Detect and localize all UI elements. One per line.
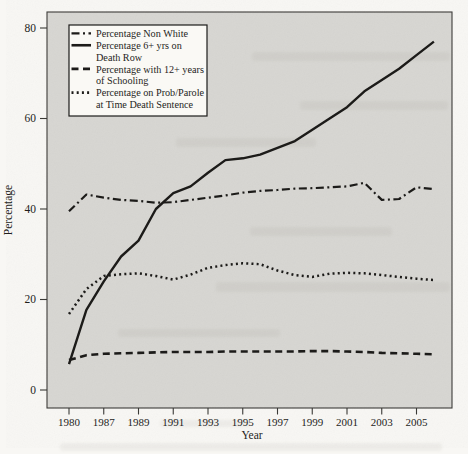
ghost-artifact	[60, 443, 442, 451]
x-axis-title: Year	[241, 429, 262, 441]
x-tick-label-1980: 1980	[58, 416, 81, 428]
y-tick-label-20: 20	[25, 293, 37, 305]
legend-label: of Schooling	[96, 75, 148, 86]
legend-label: Percentage 6+ yrs on	[96, 40, 182, 51]
ghost-artifact	[216, 282, 450, 292]
x-tick-label-1993: 1993	[197, 416, 220, 428]
x-tick-label-1997: 1997	[267, 416, 290, 428]
x-tick-label-2001: 2001	[336, 416, 358, 428]
x-tick-label-2003: 2003	[371, 416, 394, 428]
legend-label: Death Row	[96, 52, 143, 63]
x-tick-label-2005: 2005	[406, 416, 429, 428]
scanned-chart-page: 0204060801980198719891991199319951997199…	[0, 0, 468, 454]
ghost-artifact	[176, 138, 316, 147]
x-tick-label-1989: 1989	[128, 416, 151, 428]
x-tick-label-1995: 1995	[232, 416, 255, 428]
legend-label: Percentage with 12+ years	[96, 64, 204, 75]
ghost-artifact	[300, 101, 448, 110]
y-axis-title: Percentage	[2, 185, 15, 235]
legend-label: Percentage on Prob/Parole	[96, 87, 205, 98]
y-tick-label-80: 80	[25, 22, 37, 34]
x-tick-label-1999: 1999	[301, 416, 324, 428]
y-tick-label-60: 60	[25, 112, 37, 124]
ghost-artifact	[118, 329, 280, 337]
x-tick-label-1991: 1991	[162, 416, 184, 428]
y-tick-label-0: 0	[30, 384, 36, 396]
legend-label: at Time Death Sentence	[96, 99, 194, 110]
y-tick-label-40: 40	[25, 203, 37, 215]
chart-canvas: 0204060801980198719891991199319951997199…	[0, 0, 468, 454]
legend-label: Percentage Non White	[96, 28, 189, 39]
line-chart-figure: 0204060801980198719891991199319951997199…	[0, 0, 468, 454]
x-tick-label-1987: 1987	[93, 416, 116, 428]
ghost-artifact	[250, 227, 392, 236]
